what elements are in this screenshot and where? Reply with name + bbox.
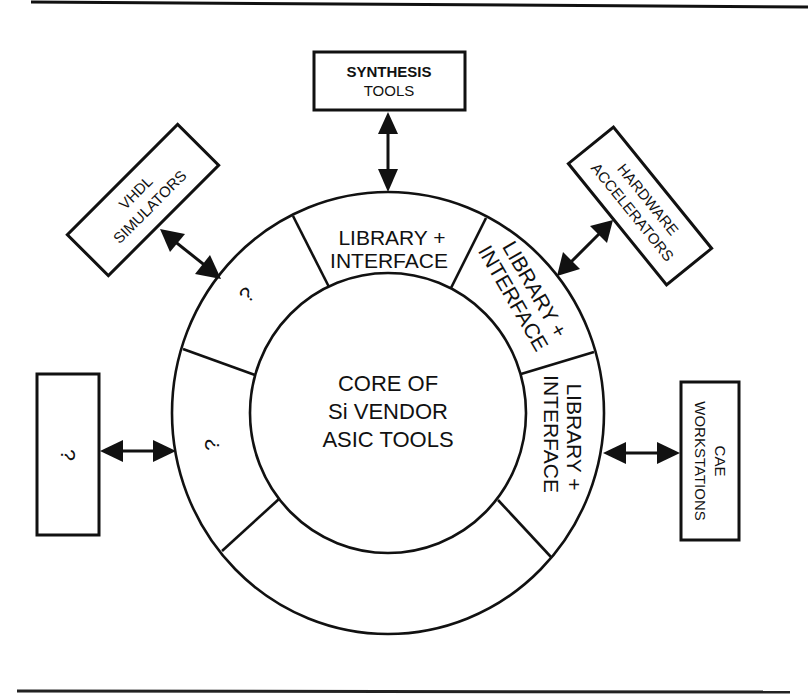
arrow-hardware-ring <box>557 220 613 276</box>
segment-top-line-1: LIBRARY + <box>338 226 445 249</box>
synthesis-line-1: SYNTHESIS <box>346 63 431 80</box>
divider-top-left <box>293 216 329 287</box>
arrow-vhdl-ring <box>160 229 221 279</box>
segment-upper-right: LIBRARY + INTERFACE <box>474 230 573 355</box>
arrow-synthesis-ring <box>378 112 398 192</box>
segment-left-label: ? <box>200 439 223 451</box>
segment-top-line-2: INTERFACE <box>330 249 448 272</box>
top-rule <box>31 2 808 7</box>
segment-top: LIBRARY + INTERFACE <box>330 226 448 272</box>
core-line-2: Si VENDOR <box>328 399 448 424</box>
segment-right: LIBRARY + INTERFACE <box>540 375 586 493</box>
box-vhdl-simulators: VHDL SIMULATORS <box>67 124 218 275</box>
box-unknown: ? <box>37 374 99 535</box>
divider-lower-right <box>498 500 551 557</box>
core-line-1: CORE OF <box>338 371 438 396</box>
segment-right-line-1: LIBRARY + <box>563 383 586 490</box>
segment-upper-left-label: ? <box>234 282 259 307</box>
box-hardware-accelerators: HARDWARE ACCELERATORS <box>568 127 711 285</box>
box-synthesis-tools: SYNTHESIS TOOLS <box>314 52 465 110</box>
divider-left <box>183 349 255 375</box>
cae-line-1: CAE <box>712 446 729 477</box>
unknown-box-label: ? <box>57 449 80 461</box>
bottom-rule <box>17 691 790 692</box>
asic-tools-diagram: CORE OF Si VENDOR ASIC TOOLS LIBRARY + I… <box>0 0 808 695</box>
divider-lower-left <box>222 499 279 551</box>
cae-line-2: WORKSTATIONS <box>692 401 709 520</box>
segment-right-line-2: INTERFACE <box>540 375 563 493</box>
segment-left: ? <box>200 439 223 451</box>
box-cae-workstations: CAE WORKSTATIONS <box>681 382 739 540</box>
divider-right <box>521 352 594 374</box>
core-line-3: ASIC TOOLS <box>322 427 453 452</box>
arrow-unknown-ring <box>100 440 176 462</box>
segment-upper-left: ? <box>234 282 259 307</box>
arrow-cae-ring <box>603 442 680 464</box>
synthesis-line-2: TOOLS <box>364 82 415 99</box>
core-label: CORE OF Si VENDOR ASIC TOOLS <box>322 371 453 452</box>
